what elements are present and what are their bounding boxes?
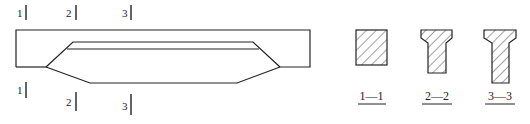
section-3-3-shape — [484, 30, 516, 83]
section-mark-label: 1 — [17, 7, 23, 19]
section-mark-label: 3 — [122, 7, 128, 19]
section-marks-top: 1 2 3 — [17, 5, 131, 20]
haunch-top-profile — [46, 42, 280, 67]
haunch-bottom-profile — [46, 67, 280, 83]
section-2-2: 2—2 — [421, 30, 452, 104]
section-mark-label: 2 — [66, 7, 72, 19]
section-mark-label: 3 — [122, 100, 128, 112]
section-marks-bottom: 1 2 3 — [17, 82, 131, 115]
beam-elevation — [16, 30, 310, 83]
section-2-2-caption: 2—2 — [425, 89, 449, 103]
section-mark-label: 1 — [17, 84, 23, 96]
section-mark-label: 2 — [66, 96, 72, 108]
section-1-1-shape — [356, 30, 387, 65]
section-1-1-caption: 1—1 — [360, 89, 384, 103]
beam-diagram: 1 2 3 1 2 3 1—1 2—2 3—3 — [0, 0, 530, 124]
section-3-3: 3—3 — [484, 30, 516, 104]
section-1-1: 1—1 — [356, 30, 387, 104]
section-2-2-shape — [421, 30, 452, 73]
section-3-3-caption: 3—3 — [488, 89, 512, 103]
